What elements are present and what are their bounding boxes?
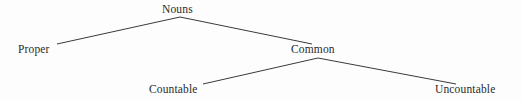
tree-node-uncountable: Uncountable (435, 83, 495, 96)
tree-node-common: Common (291, 43, 335, 56)
tree-node-nouns: Nouns (162, 3, 193, 16)
edge-nouns-to-proper (57, 17, 180, 44)
tree-node-proper: Proper (18, 43, 50, 56)
edge-nouns-to-common (180, 17, 312, 44)
tree-node-countable: Countable (149, 83, 198, 96)
noun-tree-diagram: Nouns Proper Common Countable Uncountabl… (0, 0, 522, 100)
edge-common-to-uncountable (318, 58, 456, 84)
edge-common-to-countable (203, 58, 318, 84)
